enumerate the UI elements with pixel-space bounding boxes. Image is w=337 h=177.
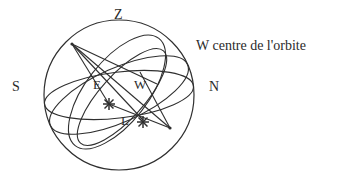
node-upper-left — [70, 42, 73, 45]
node-lower-right — [168, 126, 171, 129]
label-east-point: E — [93, 78, 101, 91]
star-marker-one-icon — [103, 98, 115, 110]
label-zenith: Z — [114, 8, 123, 22]
caption-orbit-center: W centre de l'orbite — [196, 39, 306, 53]
chord-line-icon — [72, 44, 143, 120]
label-west-point: W — [134, 78, 146, 91]
star-marker-two-icon — [137, 116, 149, 128]
label-north: N — [209, 80, 219, 94]
label-south: S — [12, 80, 20, 94]
sphere-figure-svg — [0, 0, 337, 177]
label-orbit-point: L — [121, 114, 129, 127]
astronomical-sphere-diagram: Z S N E W L W centre de l'orbite — [0, 0, 337, 177]
